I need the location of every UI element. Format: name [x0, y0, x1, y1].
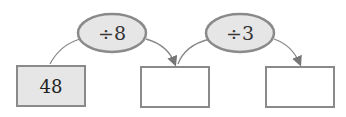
start-value: 48: [40, 76, 63, 97]
answer-box-2[interactable]: [265, 66, 335, 108]
operation-label: ÷8: [98, 22, 126, 44]
operation-label: ÷3: [226, 22, 254, 44]
start-value-box: 48: [16, 65, 86, 107]
answer-box-1[interactable]: [140, 66, 210, 108]
operation-divide-by-3: ÷3: [205, 13, 275, 53]
operation-divide-by-8: ÷8: [77, 13, 147, 53]
